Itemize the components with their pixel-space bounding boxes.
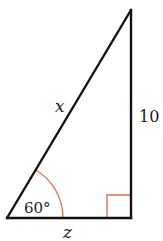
right-angle-marker [107, 195, 131, 218]
hypotenuse-label: x [55, 96, 65, 116]
right-triangle-diagram: x 10 60° z [0, 0, 163, 241]
angle-label: 60° [24, 199, 51, 217]
vertical-leg-label: 10 [139, 107, 159, 126]
hypotenuse-edge [7, 10, 131, 218]
horizontal-leg-label: z [62, 222, 73, 241]
